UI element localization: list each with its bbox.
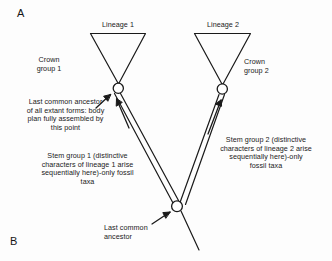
phylogenetic-tree-figure: A B Lineage 1 Lineage 2 Crown group 1 Cr… <box>0 0 332 261</box>
lineage-2-label: Lineage 2 <box>188 21 258 30</box>
crown-group-1-label: Crown group 1 <box>18 56 80 73</box>
last-common-ancestor-label: Last common ancestor <box>104 224 170 241</box>
arrow-to-basal-node <box>152 212 170 224</box>
stem-group-1-label: Stem group 1 (distinctive characters of … <box>22 152 153 186</box>
last-common-ancestor-extant-label: Last common ancestor of all extant forms… <box>7 98 124 132</box>
panel-letter-b: B <box>10 235 18 247</box>
lineage-1-triangle <box>91 34 146 85</box>
stem-group-1-lines <box>115 94 179 204</box>
lineage-2-triangle <box>195 34 251 86</box>
panel-letter-a: A <box>17 7 25 19</box>
basal-node <box>172 201 183 212</box>
crown-node-2 <box>217 84 227 94</box>
lineage-1-label: Lineage 1 <box>83 21 153 30</box>
crown-group-2-label: Crown group 2 <box>244 58 310 75</box>
crown-node-1 <box>113 83 123 93</box>
stem-group-2-label: Stem group 2 (distinctive characters of … <box>206 136 326 170</box>
root-branch <box>181 211 199 250</box>
